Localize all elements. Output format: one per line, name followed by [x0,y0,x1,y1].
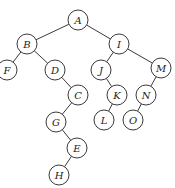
tree-node-C: C [68,85,88,105]
tree-node-E: E [67,138,87,158]
edge-A-I [87,25,111,39]
tree-node-N: N [136,85,156,105]
edge-J-K [106,78,111,86]
tree-node-F: F [0,60,17,80]
node-label: H [54,170,64,181]
tree-node-I: I [109,34,129,54]
node-label: A [73,15,81,26]
edge-D-C [62,77,71,87]
node-label: B [22,39,30,50]
edge-B-F [13,52,21,62]
tree-node-D: D [45,60,65,80]
tree-node-A: A [68,10,88,30]
tree-node-O: O [123,110,143,130]
edge-I-J [107,52,114,62]
tree-nodes: ABIFDJMCKNGLOEH [0,10,171,185]
tree-node-M: M [151,58,171,78]
node-label: N [141,90,152,101]
node-label: F [3,65,12,76]
edge-I-M [128,49,153,63]
node-label: E [72,143,81,154]
node-label: C [74,90,82,101]
tree-node-B: B [17,34,37,54]
edge-M-N [151,77,156,87]
edge-E-H [65,156,72,166]
tree-node-G: G [46,112,66,132]
node-label: G [52,117,60,128]
edge-B-D [34,51,47,63]
node-label: L [100,115,108,126]
tree-node-L: L [94,110,114,130]
node-label: M [155,63,167,74]
node-label: J [97,65,104,76]
binary-tree-diagram: ABIFDJMCKNGLOEH [0,0,175,188]
edge-N-O [138,104,142,111]
node-label: D [50,65,59,76]
edge-A-B [36,24,69,39]
tree-node-H: H [49,165,69,185]
tree-node-K: K [107,85,127,105]
edge-K-L [109,104,113,111]
edge-G-E [62,130,70,140]
tree-node-J: J [91,60,111,80]
node-label: K [112,90,121,101]
node-label: O [129,115,137,126]
edge-C-G [62,103,71,114]
